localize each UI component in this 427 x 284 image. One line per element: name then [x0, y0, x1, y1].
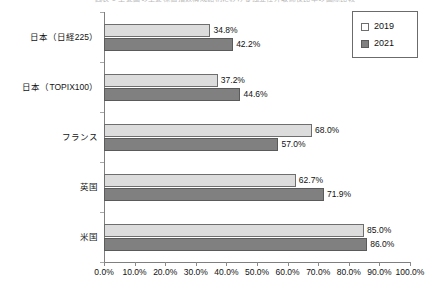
x-tick-label-80: 80.0%: [337, 266, 361, 278]
bar-value-2021-2: 57.0%: [281, 138, 305, 151]
category-label-1: 日本（TOPIX100）: [0, 82, 98, 92]
bar-2019-1[interactable]: [104, 74, 218, 87]
x-axis-tick-labels: 0.0%10.0%20.0%30.0%40.0%50.0%60.0%70.0%8…: [0, 266, 427, 280]
bar-2021-2[interactable]: [104, 138, 278, 151]
bar-value-2019-3: 62.7%: [299, 174, 323, 187]
x-tick-label-100: 100.0%: [396, 266, 425, 278]
x-tick-label-0: 0.0%: [94, 266, 113, 278]
legend-label-2021: 2021: [374, 39, 394, 48]
x-tick-label-30: 30.0%: [184, 266, 208, 278]
bar-2021-1[interactable]: [104, 88, 240, 101]
legend-swatch-2019-icon: [361, 23, 369, 31]
legend-item-2021[interactable]: 2021: [361, 35, 417, 52]
chart-legend: 2019 2021: [352, 11, 418, 58]
bar-2019-2[interactable]: [104, 124, 312, 137]
bar-2019-3[interactable]: [104, 174, 296, 187]
category-tick-5: [100, 262, 104, 263]
bar-2021-4[interactable]: [104, 238, 367, 251]
bar-value-2021-0: 42.2%: [236, 38, 260, 51]
bar-2021-0[interactable]: [104, 38, 233, 51]
bar-value-2021-3: 71.9%: [327, 188, 351, 201]
bar-2019-0[interactable]: [104, 24, 210, 37]
category-label-2: フランス: [0, 132, 98, 142]
bar-chart: 図表 1 主要国の主要株価指数構成銘柄における独立社外取締役比率の国際比較 20…: [0, 0, 427, 284]
x-tick-label-20: 20.0%: [153, 266, 177, 278]
legend-swatch-2021-icon: [361, 40, 369, 48]
bar-value-2019-0: 34.8%: [213, 24, 237, 37]
bar-value-2019-1: 37.2%: [221, 74, 245, 87]
category-label-4: 米国: [0, 232, 98, 242]
category-label-0: 日本（日経225）: [0, 32, 98, 42]
bar-2021-3[interactable]: [104, 188, 324, 201]
legend-label-2019: 2019: [374, 22, 394, 31]
chart-title: 図表 1 主要国の主要株価指数構成銘柄における独立社外取締役比率の国際比較: [60, 0, 390, 3]
x-tick-label-40: 40.0%: [214, 266, 238, 278]
bar-value-2021-4: 86.0%: [370, 238, 394, 251]
x-tick-label-70: 70.0%: [306, 266, 330, 278]
x-tick-label-50: 50.0%: [245, 266, 269, 278]
bar-value-2021-1: 44.6%: [243, 88, 267, 101]
x-tick-label-60: 60.0%: [276, 266, 300, 278]
legend-item-2019[interactable]: 2019: [361, 18, 417, 35]
x-tick-label-10: 10.0%: [123, 266, 147, 278]
category-label-3: 英国: [0, 182, 98, 192]
bar-2019-4[interactable]: [104, 224, 364, 237]
bar-value-2019-4: 85.0%: [367, 224, 391, 237]
bar-value-2019-2: 68.0%: [315, 124, 339, 137]
x-tick-label-90: 90.0%: [367, 266, 391, 278]
